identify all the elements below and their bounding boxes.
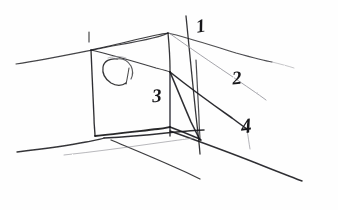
sketch-drawing [0,0,338,210]
horizon-line-upper-right [168,33,272,62]
box-edge-vertical-left [91,50,95,136]
upper-right-trailing-faint [272,62,294,68]
vanishing-ray-2-faint [169,33,266,100]
ground-line-lower-left [17,138,104,152]
annotation-label-2: 2 [231,68,242,88]
perspective-sketch-canvas: 1 2 3 4 [0,0,338,210]
box-edge-top-left [91,33,168,50]
blob-tail-stroke [126,68,129,84]
box-edge-bottom-front [95,127,170,136]
annotation-label-3: 3 [151,86,162,106]
ground-ray-to-lower-left [111,140,200,179]
annotation-label-4: 4 [240,115,253,137]
blob-upper-edge [117,59,133,79]
blob-hook-shape [103,59,126,85]
box-edge-top-right [168,33,170,72]
ground-line-lower-faint [64,138,194,155]
